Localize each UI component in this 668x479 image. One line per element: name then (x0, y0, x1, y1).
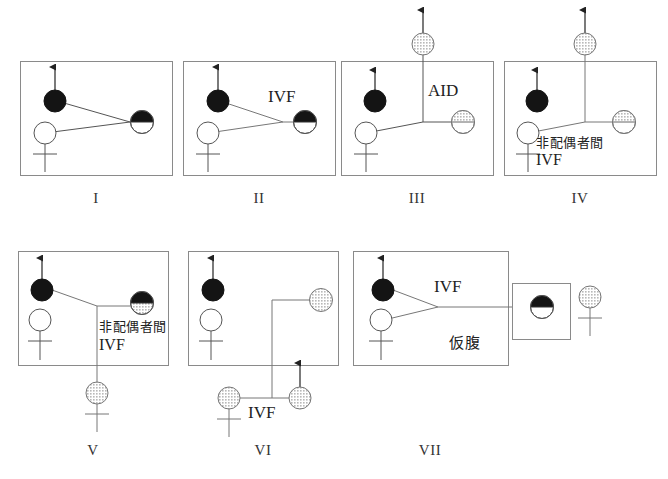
panel-V (19, 252, 169, 433)
panel-label-V: V (53, 442, 133, 459)
annotation-donor-ivf-en-panel-V: IVF (99, 337, 125, 354)
annotation-ivf-panel-II: IVF (268, 88, 295, 106)
panel-label-II: II (219, 190, 299, 207)
symbol-donor-IV (574, 10, 596, 55)
surrogate-inner-box (513, 284, 571, 340)
panel-IV (505, 10, 657, 176)
annotation-donor-ivf-jp-panel-V: 非配偶者間 (99, 320, 167, 334)
symbol-offspring-II (294, 111, 317, 134)
symbol-surrogate-mother-VII (578, 286, 602, 336)
annotation-ivf-panel-VII: IVF (434, 278, 461, 296)
annotation-ivf-panel-VI: IVF (248, 404, 275, 422)
panel-label-III: III (377, 190, 457, 207)
symbol-donor-female-VI (217, 387, 241, 437)
symbol-offspring-IV (613, 111, 636, 134)
symbol-offspring-V (131, 292, 154, 315)
panel-label-VII: VII (390, 442, 470, 459)
pedigree-diagram-canvas (0, 0, 668, 479)
annotation-aid-panel-III: AID (428, 82, 458, 100)
symbol-partner-gray-VI (310, 289, 333, 312)
symbol-descendant-V (85, 382, 109, 432)
symbol-donor-male-VI (289, 363, 311, 409)
panel-I (21, 62, 173, 176)
annotation-donor-ivf-jp-panel-IV: 非配偶者間 (536, 136, 604, 150)
symbol-offspring-I (131, 111, 154, 134)
panel-label-I: I (56, 190, 136, 207)
symbol-donor-III (412, 10, 434, 55)
panel-label-VI: VI (223, 442, 303, 459)
panel-III (342, 10, 494, 176)
panel-label-IV: IV (540, 190, 620, 207)
pedigree-figure: IVF AID 非配偶者間 IVF 非配偶者間 IVF IVF IVF 仮腹 I… (0, 0, 668, 479)
annotation-donor-ivf-en-panel-IV: IVF (536, 152, 562, 169)
annotation-surrogate-jp-panel-VII: 仮腹 (449, 336, 480, 352)
panel-II (184, 62, 336, 176)
symbol-offspring-III (452, 111, 475, 134)
